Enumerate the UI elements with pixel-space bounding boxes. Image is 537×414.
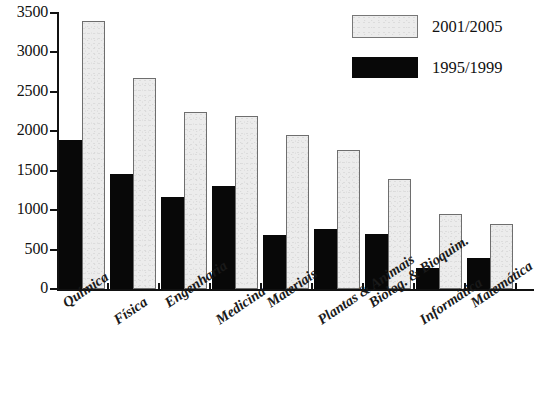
y-tick-label-0: 0 <box>0 280 48 296</box>
y-tick-3000 <box>50 51 59 53</box>
legend: 2001/2005 1995/1999 <box>352 12 532 82</box>
y-tick-label-text: 1500 <box>2 162 48 178</box>
bar-1995-1999-1 <box>110 174 133 289</box>
y-tick-label-1500: 1500 <box>0 162 48 178</box>
legend-swatch-1995-1999 <box>352 57 418 78</box>
x-group-tick-1 <box>158 283 160 290</box>
bar-1995-1999-2 <box>161 197 184 289</box>
legend-swatch-2001-2005 <box>352 15 418 38</box>
y-tick-2500 <box>50 91 59 93</box>
y-tick-1500 <box>50 170 59 172</box>
y-tick-label-text: 1000 <box>2 201 48 217</box>
bar-2001-2005-2 <box>184 112 207 289</box>
y-tick-label-text: 500 <box>2 241 48 257</box>
y-tick-label-text: 0 <box>2 280 48 296</box>
y-tick-label-text: 3500 <box>2 4 48 20</box>
y-tick-label-2000: 2000 <box>0 122 48 138</box>
y-tick-label-text: 3000 <box>2 43 48 59</box>
y-tick-3500 <box>50 12 59 14</box>
y-tick-2000 <box>50 130 59 132</box>
bar-2001-2005-5 <box>337 150 360 289</box>
y-tick-label-text: 2500 <box>2 83 48 99</box>
y-tick-label-1000: 1000 <box>0 201 48 217</box>
y-tick-label-3500: 3500 <box>0 4 48 20</box>
y-tick-label-text: 2000 <box>2 122 48 138</box>
bar-2001-2005-0 <box>82 21 105 289</box>
bar-2001-2005-4 <box>286 135 309 289</box>
bar-2001-2005-1 <box>133 78 156 289</box>
legend-label-1995-1999: 1995/1999 <box>432 59 503 76</box>
bar-1995-1999-0 <box>59 140 82 289</box>
bar-chart: 0500100015002000250030003500 QuímicaFísi… <box>0 0 537 414</box>
legend-label-2001-2005: 2001/2005 <box>432 18 503 35</box>
legend-entry-new: 2001/2005 <box>352 14 503 38</box>
legend-entry-old: 1995/1999 <box>352 55 503 79</box>
bar-1995-1999-5 <box>314 229 337 289</box>
bar-1995-1999-4 <box>263 235 286 289</box>
y-tick-500 <box>50 249 59 251</box>
y-tick-label-3000: 3000 <box>0 43 48 59</box>
y-tick-label-500: 500 <box>0 241 48 257</box>
x-category-label-1: Física <box>111 294 150 327</box>
y-tick-1000 <box>50 209 59 211</box>
y-tick-label-2500: 2500 <box>0 83 48 99</box>
bar-2001-2005-3 <box>235 116 258 289</box>
